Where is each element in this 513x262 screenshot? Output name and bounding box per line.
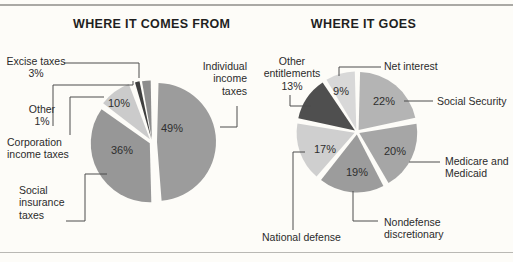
pie-slice-pct-2: 10% [108, 97, 130, 109]
label-net-interest: Net interest [384, 60, 454, 72]
label-pct: 13% [260, 80, 324, 92]
label-social-security: Social Security [437, 95, 511, 107]
label-text: Social insurance taxes [19, 184, 69, 221]
budget-pie-figure: WHERE IT COMES FROM WHERE IT GOES 49%36%… [0, 0, 513, 262]
label-pct: 3% [6, 67, 66, 79]
callout-national-defense [293, 152, 305, 230]
label-excise-taxes: Excise taxes 3% [6, 55, 66, 80]
label-text: Individual income taxes [193, 60, 247, 97]
label-corporation-income-taxes: Corporation income taxes [7, 136, 73, 161]
label-text: Medicare and Medicaid [445, 155, 511, 180]
pie-slice-pct-5: 9% [333, 85, 349, 97]
pie-slice-0 [157, 83, 216, 201]
label-other: Other 1% [20, 103, 64, 128]
label-text: Other entitlements [260, 55, 324, 80]
label-individual-income-taxes: Individual income taxes [193, 60, 247, 97]
pie-where-it-comes-from: 49%36%10% [91, 81, 216, 203]
label-medicare-and-medicaid: Medicare and Medicaid [445, 155, 511, 180]
label-text: Corporation income taxes [7, 136, 73, 161]
pie-slice-pct-2: 19% [346, 166, 368, 178]
label-text: National defense [262, 231, 352, 243]
pie-slice-pct-0: 49% [161, 122, 183, 134]
label-text: Excise taxes [6, 55, 66, 67]
label-text: Nondefense discretionary [384, 216, 450, 241]
callout-social-insurance-taxes [66, 174, 107, 221]
pie-slice-pct-1: 20% [384, 145, 406, 157]
label-text: Social Security [437, 95, 511, 107]
label-social-insurance-taxes: Social insurance taxes [19, 184, 69, 221]
pie-slice-pct-1: 36% [111, 144, 133, 156]
callout-excise-taxes [64, 63, 139, 78]
label-national-defense: National defense [262, 231, 352, 243]
label-other-entitlements: Other entitlements 13% [260, 55, 324, 92]
callout-individual-income-taxes [220, 106, 237, 127]
label-pct: 1% [20, 115, 64, 127]
pie-slice-pct-0: 22% [373, 95, 395, 107]
pie-slice-pct-3: 17% [314, 143, 336, 155]
label-text: Net interest [384, 60, 454, 72]
callout-nondefense-discretionary [353, 191, 378, 221]
label-nondefense-discretionary: Nondefense discretionary [384, 216, 450, 241]
label-text: Other [20, 103, 64, 115]
